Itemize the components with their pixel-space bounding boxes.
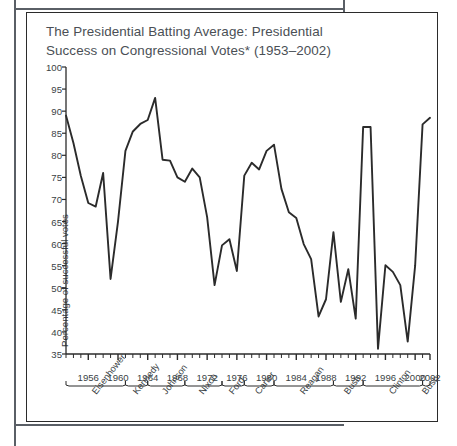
page-rule-top bbox=[14, 8, 344, 10]
chart-title: The Presidential Batting Average: Presid… bbox=[46, 22, 406, 60]
page-rule-bottom bbox=[14, 424, 344, 426]
page-rule-left bbox=[14, 0, 16, 446]
chart-title-line-1: The Presidential Batting Average: Presid… bbox=[46, 22, 406, 41]
figure-frame bbox=[26, 12, 438, 422]
chart-title-line-2: Success on Congressional Votes* (1953–20… bbox=[46, 41, 406, 60]
